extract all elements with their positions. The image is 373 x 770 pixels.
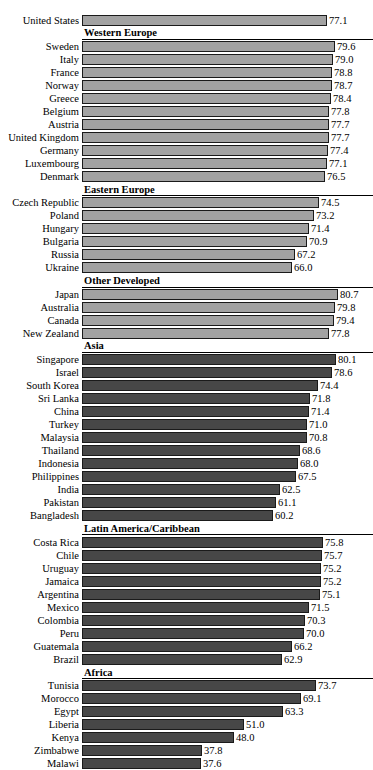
- bar-container: [82, 367, 332, 378]
- bar-morocco: [82, 693, 301, 704]
- bar-value-france: 78.8: [332, 67, 352, 78]
- bar-value-norway: 78.7: [332, 80, 352, 91]
- bar-row: Ukraine66.0: [0, 261, 373, 274]
- country-label-south-korea: South Korea: [0, 380, 82, 391]
- bar-container: [82, 54, 333, 65]
- bar-value-turkey: 71.0: [307, 419, 327, 430]
- bar-new-zealand: [82, 328, 329, 339]
- bar-container: [82, 419, 307, 430]
- country-label-bulgaria: Bulgaria: [0, 236, 82, 247]
- bar-value-sweden: 79.6: [335, 41, 355, 52]
- bar-denmark: [82, 171, 325, 182]
- country-label-bangladesh: Bangladesh: [0, 510, 82, 521]
- bar-china: [82, 406, 309, 417]
- bar-row: United States77.1: [0, 14, 373, 27]
- bar-row: Bangladesh60.2: [0, 509, 373, 522]
- country-label-liberia: Liberia: [0, 719, 82, 730]
- bar-row: Australia79.8: [0, 301, 373, 314]
- country-label-zimbabwe: Zimbabwe: [0, 745, 82, 756]
- bar-container: [82, 406, 309, 417]
- country-label-indonesia: Indonesia: [0, 458, 82, 469]
- bar-container: [82, 654, 282, 665]
- country-label-united-kingdom: United Kingdom: [0, 132, 82, 143]
- bar-value-austria: 77.7: [329, 119, 349, 130]
- bar-container: [82, 171, 325, 182]
- bar-container: [82, 445, 300, 456]
- bar-sweden: [82, 41, 335, 52]
- country-label-guatemala: Guatemala: [0, 641, 82, 652]
- bar-value-morocco: 69.1: [301, 693, 321, 704]
- bar-peru: [82, 628, 304, 639]
- bar-row: Egypt63.3: [0, 705, 373, 718]
- bar-container: [82, 563, 321, 574]
- country-label-kenya: Kenya: [0, 732, 82, 743]
- bar-row: Italy79.0: [0, 53, 373, 66]
- country-label-poland: Poland: [0, 210, 82, 221]
- bar-row: United Kingdom77.7: [0, 131, 373, 144]
- country-label-italy: Italy: [0, 54, 82, 65]
- bar-container: [82, 380, 318, 391]
- country-label-pakistan: Pakistan: [0, 497, 82, 508]
- bar-value-kenya: 48.0: [234, 732, 254, 743]
- bar-mexico: [82, 602, 309, 613]
- bar-value-czech-republic: 74.5: [319, 197, 339, 208]
- country-label-singapore: Singapore: [0, 354, 82, 365]
- bar-container: [82, 706, 283, 717]
- bar-norway: [82, 80, 332, 91]
- bar-container: [82, 145, 328, 156]
- bar-value-zimbabwe: 37.8: [202, 745, 222, 756]
- bar-jamaica: [82, 576, 321, 587]
- section-header-other-developed: Other Developed: [82, 275, 373, 288]
- bar-value-singapore: 80.1: [336, 354, 356, 365]
- bar-value-bangladesh: 60.2: [273, 510, 293, 521]
- country-label-france: France: [0, 67, 82, 78]
- country-label-israel: Israel: [0, 367, 82, 378]
- bar-container: [82, 680, 316, 691]
- bar-row: Austria77.7: [0, 118, 373, 131]
- bar-container: [82, 641, 292, 652]
- bar-row: Pakistan61.1: [0, 496, 373, 509]
- bar-row: Jamaica75.2: [0, 575, 373, 588]
- country-label-germany: Germany: [0, 145, 82, 156]
- bar-row: Malawi37.6: [0, 757, 373, 770]
- bar-container: [82, 458, 298, 469]
- bar-malawi: [82, 758, 201, 769]
- bar-value-jamaica: 75.2: [321, 576, 341, 587]
- bar-egypt: [82, 706, 283, 717]
- bar-value-australia: 79.8: [335, 302, 355, 313]
- bar-guatemala: [82, 641, 292, 652]
- country-label-china: China: [0, 406, 82, 417]
- bar-container: [82, 719, 244, 730]
- bar-ukraine: [82, 262, 292, 273]
- bar-row: Czech Republic74.5: [0, 196, 373, 209]
- bar-indonesia: [82, 458, 298, 469]
- bar-container: [82, 15, 327, 26]
- bar-container: [82, 236, 307, 247]
- bar-container: [82, 106, 329, 117]
- bar-value-ukraine: 66.0: [292, 262, 312, 273]
- country-label-peru: Peru: [0, 628, 82, 639]
- bar-value-brazil: 62.9: [282, 654, 302, 665]
- country-label-chile: Chile: [0, 550, 82, 561]
- country-label-egypt: Egypt: [0, 706, 82, 717]
- bar-row: China71.4: [0, 405, 373, 418]
- bar-container: [82, 732, 234, 743]
- bar-container: [82, 602, 309, 613]
- section-header-label: Latin America/Caribbean: [82, 523, 200, 534]
- bar-value-chile: 75.7: [322, 550, 342, 561]
- bar-value-luxembourg: 77.1: [327, 158, 347, 169]
- bar-row: Morocco69.1: [0, 692, 373, 705]
- bar-value-tunisia: 73.7: [316, 680, 336, 691]
- bar-bulgaria: [82, 236, 307, 247]
- bar-row: Mexico71.5: [0, 601, 373, 614]
- bar-container: [82, 628, 304, 639]
- bar-value-uruguay: 75.2: [321, 563, 341, 574]
- bar-israel: [82, 367, 332, 378]
- bar-united-kingdom: [82, 132, 329, 143]
- bar-value-guatemala: 66.2: [292, 641, 312, 652]
- section-header-label: Asia: [82, 340, 104, 351]
- country-label-czech-republic: Czech Republic: [0, 197, 82, 208]
- bar-container: [82, 510, 273, 521]
- bar-kenya: [82, 732, 234, 743]
